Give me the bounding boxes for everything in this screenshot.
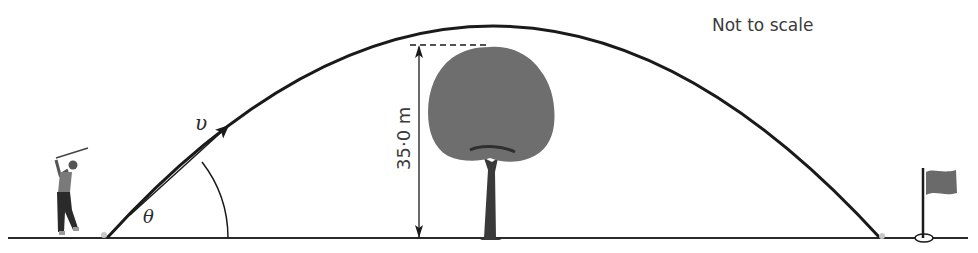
velocity-label: υ [195, 111, 207, 135]
tree-foliage [428, 47, 554, 162]
golf-flag [926, 170, 957, 195]
tree [428, 47, 554, 240]
not-to-scale-note: Not to scale [712, 15, 813, 35]
golf-ball-start [101, 232, 107, 238]
tree-trunk [480, 158, 502, 240]
golfer-figure [56, 148, 88, 235]
golf-ball-end [879, 233, 885, 239]
velocity-arrow [130, 126, 228, 215]
angle-arc [202, 162, 228, 238]
angle-label: θ [143, 206, 154, 227]
projectile-diagram: υ θ 35·0 m Not to scale [0, 0, 978, 253]
height-label: 35·0 m [393, 107, 414, 170]
